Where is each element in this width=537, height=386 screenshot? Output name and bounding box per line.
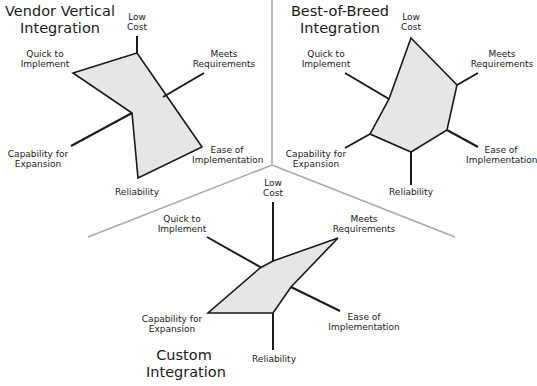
- label-low-cost: LowCost: [258, 178, 288, 198]
- chart-title-vendor: Vendor Vertical Integration: [4, 3, 116, 37]
- label-low-cost: LowCost: [122, 12, 152, 32]
- label-ease-of-implementation: Ease ofImplementation: [192, 145, 262, 165]
- axis-quick: [207, 237, 262, 268]
- title-line: Integration: [146, 364, 222, 381]
- label-reliability: Reliability: [386, 187, 436, 197]
- radar-custom: [207, 202, 340, 350]
- axis-meets-requirements: [163, 73, 204, 97]
- label-meets-requirements: MeetsRequirements: [468, 49, 536, 69]
- axis-capability: [71, 113, 132, 146]
- label-capability: Capability forExpansion: [280, 149, 352, 169]
- label-meets-requirements: MeetsRequirements: [330, 214, 398, 234]
- axis-quick: [345, 73, 389, 99]
- label-ease-of-implementation: Ease ofImplementation: [328, 312, 400, 332]
- radar-area-vendor: [73, 53, 202, 178]
- label-capability: Capability forExpansion: [136, 314, 208, 334]
- chart-title-breed: Best-of-Breed Integration: [288, 3, 392, 37]
- chart-title-custom: Custom Integration: [146, 347, 222, 381]
- title-line: Custom: [146, 347, 222, 364]
- label-quick-to-implement: Quick toImplement: [14, 49, 76, 69]
- label-ease-of-implementation: Ease ofImplementation: [466, 145, 536, 165]
- label-reliability: Reliability: [112, 187, 162, 197]
- label-capability: Capability forExpansion: [2, 149, 74, 169]
- label-reliability: Reliability: [249, 354, 299, 364]
- label-low-cost: LowCost: [396, 12, 426, 32]
- title-line: Vendor Vertical: [4, 3, 116, 20]
- label-quick-to-implement: Quick toImplement: [295, 49, 357, 69]
- axis-ease: [291, 287, 340, 311]
- radar-best-of-breed: [345, 38, 478, 185]
- title-line: Integration: [4, 20, 116, 37]
- label-meets-requirements: MeetsRequirements: [190, 49, 258, 69]
- axis-meets-requirements: [457, 73, 478, 85]
- title-line: Best-of-Breed: [288, 3, 392, 20]
- label-quick-to-implement: Quick toImplement: [151, 214, 213, 234]
- axis-capability: [345, 134, 370, 148]
- radar-vendor-vertical: [71, 36, 204, 178]
- title-line: Integration: [288, 20, 392, 37]
